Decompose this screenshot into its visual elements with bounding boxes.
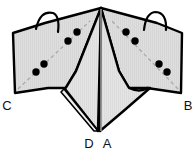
vertex-label-d: D — [84, 136, 93, 151]
dot-left-4 — [32, 68, 39, 75]
dot-left-1 — [73, 28, 80, 35]
vertex-label-b: B — [184, 98, 193, 113]
dot-right-4 — [163, 68, 170, 75]
dot-right-1 — [122, 28, 129, 35]
origami-diagram-canvas: C B D A — [0, 0, 195, 152]
dot-left-2 — [64, 37, 71, 44]
origami-diagram-figure: C B D A — [0, 0, 195, 152]
dot-right-2 — [131, 37, 138, 44]
vertex-label-a: A — [103, 136, 112, 151]
dot-left-3 — [40, 60, 47, 67]
dot-right-3 — [155, 60, 162, 67]
vertex-label-c: C — [2, 98, 11, 113]
